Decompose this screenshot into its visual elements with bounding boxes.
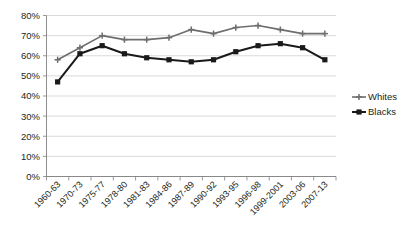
data-point-marker [278, 41, 283, 46]
y-axis-tick-label: 0% [26, 171, 40, 182]
data-point-marker [77, 51, 82, 56]
data-point-marker [211, 57, 216, 62]
legend-label: Blacks [368, 106, 396, 117]
y-axis-tick-label: 20% [21, 131, 41, 142]
data-point-marker [189, 59, 194, 64]
y-axis-tick-label: 80% [21, 10, 41, 21]
line-chart: 80%70%60%50%40%30%20%10%0% 1960-631970-7… [0, 0, 420, 237]
data-point-marker [255, 43, 260, 48]
data-point-marker [233, 49, 238, 54]
y-axis-tick-label: 50% [21, 70, 41, 81]
y-axis-tick-label: 70% [21, 30, 41, 41]
data-point-marker [300, 45, 305, 50]
legend-label: Whites [368, 91, 397, 102]
y-axis-tick-label: 10% [21, 151, 41, 162]
chart-canvas: 80%70%60%50%40%30%20%10%0% 1960-631970-7… [0, 0, 420, 237]
y-axis-tick-labels: 80%70%60%50%40%30%20%10%0% [21, 10, 41, 182]
y-axis-tick-label: 60% [21, 50, 41, 61]
data-point-marker [166, 57, 171, 62]
legend-marker [356, 109, 361, 114]
y-axis-tick-label: 30% [21, 111, 41, 122]
data-point-marker [100, 43, 105, 48]
data-point-marker [322, 57, 327, 62]
data-point-marker [122, 51, 127, 56]
data-point-marker [144, 55, 149, 60]
y-axis-tick-label: 40% [21, 90, 41, 101]
data-point-marker [55, 79, 60, 84]
